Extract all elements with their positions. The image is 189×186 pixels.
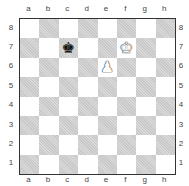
square-e2[interactable] — [98, 135, 117, 154]
square-g2[interactable] — [136, 135, 155, 154]
square-b5[interactable] — [39, 77, 58, 96]
square-d1[interactable] — [78, 155, 97, 174]
square-f6[interactable] — [117, 58, 136, 77]
square-e4[interactable] — [98, 97, 117, 116]
square-g7[interactable] — [136, 38, 155, 57]
square-b8[interactable] — [39, 19, 58, 38]
right-rank-label-2: 2 — [174, 139, 188, 149]
square-e5[interactable] — [98, 77, 117, 96]
left-rank-label-8: 8 — [4, 23, 18, 33]
chess-board[interactable]: ♚♚♟ — [19, 18, 176, 175]
square-f2[interactable] — [117, 135, 136, 154]
left-rank-label-1: 1 — [4, 158, 18, 168]
square-b6[interactable] — [39, 58, 58, 77]
square-e6[interactable]: ♟ — [98, 58, 117, 77]
square-f8[interactable] — [117, 19, 136, 38]
right-rank-label-5: 5 — [174, 81, 188, 91]
right-rank-label-4: 4 — [174, 100, 188, 110]
square-c1[interactable] — [59, 155, 78, 174]
square-d6[interactable] — [78, 58, 97, 77]
bottom-file-label-h: h — [155, 175, 174, 185]
square-c2[interactable] — [59, 135, 78, 154]
square-g6[interactable] — [136, 58, 155, 77]
bottom-file-label-d: d — [77, 175, 96, 185]
square-g3[interactable] — [136, 116, 155, 135]
square-a8[interactable] — [20, 19, 39, 38]
bottom-file-label-c: c — [58, 175, 77, 185]
square-e3[interactable] — [98, 116, 117, 135]
square-g8[interactable] — [136, 19, 155, 38]
right-rank-label-7: 7 — [174, 42, 188, 52]
square-b1[interactable] — [39, 155, 58, 174]
square-b7[interactable] — [39, 38, 58, 57]
top-file-label-a: a — [19, 4, 38, 14]
square-g4[interactable] — [136, 97, 155, 116]
top-file-label-g: g — [135, 4, 154, 14]
right-rank-label-6: 6 — [174, 61, 188, 71]
top-file-label-b: b — [38, 4, 57, 14]
square-g1[interactable] — [136, 155, 155, 174]
top-file-label-f: f — [116, 4, 135, 14]
square-a5[interactable] — [20, 77, 39, 96]
square-f3[interactable] — [117, 116, 136, 135]
square-e1[interactable] — [98, 155, 117, 174]
bottom-file-label-e: e — [97, 175, 116, 185]
left-rank-label-6: 6 — [4, 61, 18, 71]
square-f1[interactable] — [117, 155, 136, 174]
square-d3[interactable] — [78, 116, 97, 135]
left-rank-label-5: 5 — [4, 81, 18, 91]
square-a3[interactable] — [20, 116, 39, 135]
white-king-icon[interactable]: ♚ — [120, 41, 133, 56]
square-d8[interactable] — [78, 19, 97, 38]
square-a7[interactable] — [20, 38, 39, 57]
square-d5[interactable] — [78, 77, 97, 96]
square-a4[interactable] — [20, 97, 39, 116]
square-c7[interactable]: ♚ — [59, 38, 78, 57]
square-c5[interactable] — [59, 77, 78, 96]
square-f7[interactable]: ♚ — [117, 38, 136, 57]
right-rank-label-1: 1 — [174, 158, 188, 168]
square-c8[interactable] — [59, 19, 78, 38]
square-d2[interactable] — [78, 135, 97, 154]
square-a2[interactable] — [20, 135, 39, 154]
square-b3[interactable] — [39, 116, 58, 135]
white-pawn-icon[interactable]: ♟ — [100, 60, 113, 75]
square-f5[interactable] — [117, 77, 136, 96]
square-h6[interactable] — [156, 58, 175, 77]
square-a1[interactable] — [20, 155, 39, 174]
square-d7[interactable] — [78, 38, 97, 57]
left-rank-label-7: 7 — [4, 42, 18, 52]
square-c6[interactable] — [59, 58, 78, 77]
top-file-label-e: e — [97, 4, 116, 14]
top-file-label-c: c — [58, 4, 77, 14]
bottom-file-label-f: f — [116, 175, 135, 185]
top-file-label-h: h — [155, 4, 174, 14]
bottom-file-label-b: b — [38, 175, 57, 185]
top-file-label-d: d — [77, 4, 96, 14]
bottom-file-label-g: g — [135, 175, 154, 185]
square-e8[interactable] — [98, 19, 117, 38]
square-a6[interactable] — [20, 58, 39, 77]
square-b2[interactable] — [39, 135, 58, 154]
square-h4[interactable] — [156, 97, 175, 116]
square-e7[interactable] — [98, 38, 117, 57]
square-h5[interactable] — [156, 77, 175, 96]
square-b4[interactable] — [39, 97, 58, 116]
left-rank-label-3: 3 — [4, 120, 18, 130]
square-h8[interactable] — [156, 19, 175, 38]
square-g5[interactable] — [136, 77, 155, 96]
square-f4[interactable] — [117, 97, 136, 116]
square-d4[interactable] — [78, 97, 97, 116]
left-rank-label-2: 2 — [4, 139, 18, 149]
square-h7[interactable] — [156, 38, 175, 57]
bottom-file-label-a: a — [19, 175, 38, 185]
square-h3[interactable] — [156, 116, 175, 135]
black-king-icon[interactable]: ♚ — [62, 41, 75, 56]
square-c4[interactable] — [59, 97, 78, 116]
right-rank-label-3: 3 — [174, 120, 188, 130]
right-rank-label-8: 8 — [174, 23, 188, 33]
square-h2[interactable] — [156, 135, 175, 154]
square-h1[interactable] — [156, 155, 175, 174]
square-c3[interactable] — [59, 116, 78, 135]
left-rank-label-4: 4 — [4, 100, 18, 110]
